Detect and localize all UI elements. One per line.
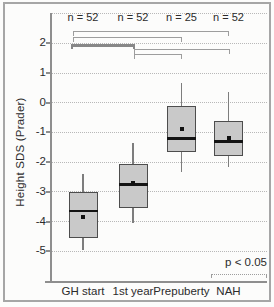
- sig-bracket-gh-start-1st-year: [71, 44, 134, 47]
- sig-bracket-gh-start-1st-year-tick-right: [133, 44, 135, 49]
- y-tick-mark--5: [46, 250, 51, 252]
- sig-bracket-gh-start-nah-tick-right: [228, 31, 229, 36]
- y-tick-mark--3: [46, 191, 51, 193]
- legend-bracket: [211, 274, 267, 275]
- y-axis-line: [50, 13, 52, 283]
- y-tick-label-2: 2: [22, 36, 46, 48]
- significance-note: p < 0.05: [197, 256, 267, 268]
- median-line-nah: [214, 140, 243, 143]
- gridline-y-0: [52, 102, 267, 103]
- y-axis-title: Height SDS (Prader): [14, 97, 26, 206]
- legend-bracket-tick-right: [266, 274, 267, 278]
- y-tick-mark--2: [46, 161, 51, 163]
- sig-bracket-gh-start-prepuberty-tick-left: [73, 37, 74, 42]
- sig-bracket-gh-start-prepuberty-tick-right: [181, 37, 182, 42]
- gridline-y-1: [52, 73, 267, 74]
- sig-bracket-1st-year-prepuberty-tick-left: [134, 54, 135, 59]
- mean-marker-1st-year: [131, 181, 135, 185]
- sig-bracket-1st-year-prepuberty-tick-right: [181, 54, 182, 59]
- y-tick-mark--1: [46, 131, 51, 133]
- median-line-gh-start: [69, 210, 98, 213]
- boxplot-figure: 210-1-2-3-4-5n = 52GH startn = 521st yea…: [0, 0, 274, 307]
- y-tick-label-1: 1: [22, 66, 46, 78]
- median-line-prepuberty: [167, 137, 196, 140]
- y-tick-mark-0: [46, 102, 51, 104]
- gridline-y--5: [52, 251, 267, 252]
- sig-bracket-1st-year-nah: [134, 49, 230, 50]
- y-tick-mark-1: [46, 72, 51, 74]
- sig-bracket-gh-start-nah: [73, 31, 229, 32]
- y-tick-label--5: -5: [22, 244, 46, 256]
- mean-marker-prepuberty: [180, 127, 184, 131]
- box-1st-year: [119, 164, 148, 209]
- y-tick-label--4: -4: [22, 215, 46, 227]
- x-axis-line: [45, 281, 267, 283]
- gridline-y--2: [52, 162, 267, 163]
- sig-bracket-1st-year-nah-tick-right: [229, 49, 230, 54]
- sig-bracket-gh-start-nah-tick-left: [73, 31, 74, 36]
- mean-marker-nah: [227, 136, 231, 140]
- sig-bracket-gh-start-1st-year-tick-left: [71, 44, 73, 49]
- y-tick-mark--4: [46, 221, 51, 223]
- mean-marker-gh-start: [81, 215, 85, 219]
- sig-bracket-gh-start-prepuberty: [73, 37, 182, 38]
- y-tick-mark-2: [46, 42, 51, 44]
- x-category-label-nah: NAH: [194, 285, 264, 297]
- legend-bracket-tick-left: [211, 274, 212, 278]
- sig-bracket-1st-year-prepuberty: [134, 54, 182, 55]
- n-label-nah: n = 52: [199, 11, 259, 23]
